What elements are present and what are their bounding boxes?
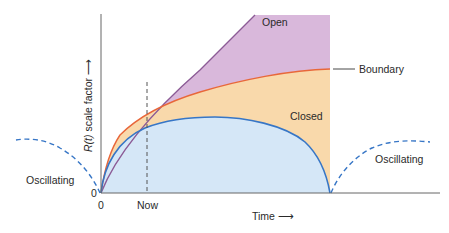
boundary-label: Boundary xyxy=(359,63,405,75)
oscillating-right-curve xyxy=(331,141,430,193)
y-axis-label: scale factor xyxy=(82,77,94,134)
closed-label: Closed xyxy=(290,110,323,122)
y-axis-label-italic: R(t) xyxy=(82,135,94,153)
x-axis-label: Time xyxy=(252,210,275,222)
open-label: Open xyxy=(262,16,288,28)
now-label: Now xyxy=(137,199,158,211)
y-axis-arrow-icon: ⟶ xyxy=(82,59,94,75)
origin-x-label: 0 xyxy=(98,199,104,211)
scale-factor-diagram: Open Boundary Closed Oscillating Oscilla… xyxy=(0,0,449,233)
x-axis-title: Time ⟶ xyxy=(252,210,294,222)
x-axis-arrow-icon: ⟶ xyxy=(278,210,294,222)
oscillating-left-label: Oscillating xyxy=(26,174,75,186)
origin-y-label: 0 xyxy=(91,187,97,199)
svg-text:R(t) scale factor⟶: R(t) scale factor⟶ xyxy=(82,59,94,152)
y-axis-title: R(t) scale factor⟶ xyxy=(82,59,94,152)
oscillating-right-label: Oscillating xyxy=(375,153,424,165)
